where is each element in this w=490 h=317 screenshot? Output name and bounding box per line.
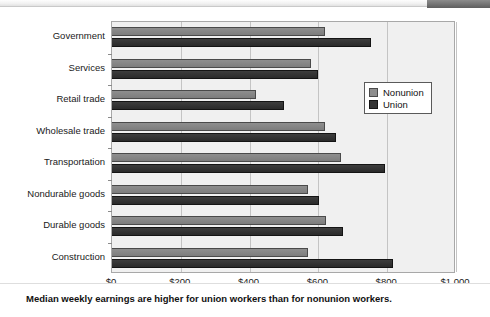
category-label: Durable goods <box>43 219 105 230</box>
plot-area <box>111 21 455 273</box>
bar-group <box>112 185 454 206</box>
category-tick <box>108 54 112 55</box>
legend-label-nonunion: Nonunion <box>383 87 424 98</box>
category-label: Retail trade <box>56 93 105 104</box>
bar-nonunion <box>112 216 326 225</box>
bar-nonunion <box>112 185 308 194</box>
category-label: Nondurable goods <box>27 188 105 199</box>
bar-union <box>112 101 284 110</box>
bar-group <box>112 122 454 143</box>
chart-figure: GovernmentServicesRetail tradeWholesale … <box>0 8 490 283</box>
top-right-badge <box>427 0 490 8</box>
legend-item-union: Union <box>369 98 424 110</box>
bar-union <box>112 70 318 79</box>
legend-item-nonunion: Nonunion <box>369 86 424 98</box>
category-tick <box>108 243 112 244</box>
category-label: Transportation <box>44 156 105 167</box>
legend-swatch-nonunion <box>369 88 378 97</box>
bar-group <box>112 27 454 48</box>
bar-group <box>112 153 454 174</box>
legend-swatch-union <box>369 100 378 109</box>
category-tick <box>108 117 112 118</box>
category-label: Government <box>53 30 105 41</box>
bars-layer <box>112 22 454 272</box>
category-tick <box>108 148 112 149</box>
bar-nonunion <box>112 248 308 257</box>
bar-nonunion <box>112 59 311 68</box>
bar-group <box>112 59 454 80</box>
chart-legend: Nonunion Union <box>364 82 432 114</box>
caption-text: Median weekly earnings are higher for un… <box>26 293 392 304</box>
bar-union <box>112 196 319 205</box>
caption-area: Median weekly earnings are higher for un… <box>0 283 490 317</box>
bar-union <box>112 38 371 47</box>
bar-union <box>112 133 336 142</box>
bar-group <box>112 216 454 237</box>
category-label: Construction <box>52 251 105 262</box>
bar-union <box>112 259 393 268</box>
category-tick <box>108 180 112 181</box>
category-tick <box>108 85 112 86</box>
bar-group <box>112 248 454 269</box>
window-top-strip <box>0 0 490 7</box>
category-label: Wholesale trade <box>36 125 105 136</box>
bar-nonunion <box>112 90 256 99</box>
bar-nonunion <box>112 27 325 36</box>
bar-union <box>112 164 385 173</box>
bar-union <box>112 227 343 236</box>
category-tick <box>108 211 112 212</box>
category-label: Services <box>69 62 105 73</box>
bar-nonunion <box>112 153 341 162</box>
gridline <box>456 22 457 272</box>
legend-label-union: Union <box>383 99 408 110</box>
bar-nonunion <box>112 122 325 131</box>
